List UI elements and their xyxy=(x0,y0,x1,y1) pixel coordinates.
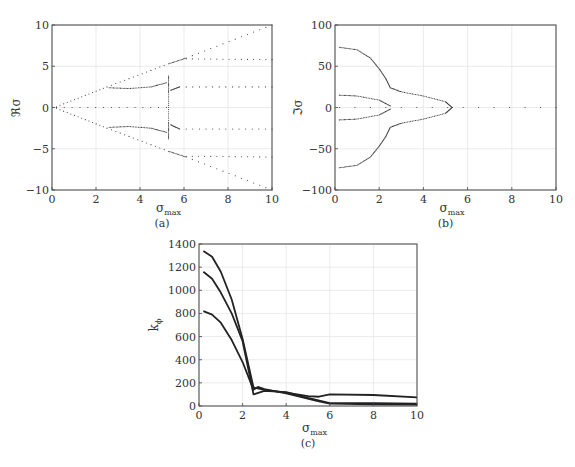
data-point xyxy=(92,122,93,123)
data-point xyxy=(265,27,266,28)
data-point xyxy=(219,86,220,87)
data-point xyxy=(417,120,418,121)
data-point xyxy=(429,117,430,118)
data-point xyxy=(160,130,161,131)
data-point xyxy=(168,128,169,129)
data-point xyxy=(158,84,159,85)
data-point xyxy=(168,120,169,121)
data-point xyxy=(229,59,230,60)
data-point xyxy=(119,107,120,108)
data-point xyxy=(138,87,139,88)
data-point xyxy=(147,87,148,88)
data-point xyxy=(265,86,266,87)
data-point xyxy=(439,100,440,101)
data-point xyxy=(435,115,436,116)
data-point xyxy=(353,165,354,166)
y-tick-label: 0 xyxy=(325,102,332,115)
data-point xyxy=(339,47,340,48)
data-point xyxy=(159,130,160,131)
data-point xyxy=(109,87,110,88)
data-point xyxy=(124,126,125,127)
data-point xyxy=(179,86,180,87)
data-point xyxy=(416,107,417,108)
data-point xyxy=(426,118,427,119)
data-point xyxy=(361,96,362,97)
data-point xyxy=(431,116,432,117)
data-point xyxy=(351,48,352,49)
data-point xyxy=(235,156,236,157)
data-point xyxy=(163,83,164,84)
data-point xyxy=(174,153,175,154)
data-point xyxy=(135,126,136,127)
data-point xyxy=(357,95,358,96)
data-point xyxy=(351,165,352,166)
data-point xyxy=(124,80,125,81)
data-point xyxy=(340,47,341,48)
y-tick-label: −100 xyxy=(302,184,332,197)
data-point xyxy=(340,119,341,120)
y-tick-label: 0 xyxy=(42,102,49,115)
data-point xyxy=(85,119,86,120)
data-point xyxy=(210,156,211,157)
data-point xyxy=(222,59,223,60)
data-point xyxy=(183,58,184,59)
data-point xyxy=(139,127,140,128)
data-point xyxy=(111,85,112,86)
data-point xyxy=(374,115,375,116)
data-point xyxy=(377,99,378,100)
data-point xyxy=(253,182,254,183)
data-point xyxy=(402,92,403,93)
data-point xyxy=(168,107,169,108)
data-point xyxy=(164,65,165,66)
data-point xyxy=(63,111,64,112)
data-point xyxy=(146,87,147,88)
data-point xyxy=(364,160,365,161)
data-point xyxy=(440,100,441,101)
data-point xyxy=(235,175,236,176)
data-point xyxy=(78,116,79,117)
data-point xyxy=(370,107,371,108)
data-point xyxy=(362,161,363,162)
data-point xyxy=(341,95,342,96)
data-point xyxy=(184,58,185,59)
x-tick-label: 4 xyxy=(137,193,144,206)
data-point xyxy=(59,105,60,106)
data-point xyxy=(166,132,167,133)
data-point xyxy=(345,95,346,96)
data-point xyxy=(168,124,169,125)
data-point xyxy=(229,156,230,157)
data-point xyxy=(345,48,346,49)
y-axis-label: kϕ xyxy=(147,318,163,331)
data-point xyxy=(368,97,369,98)
data-point xyxy=(88,93,89,94)
data-point xyxy=(253,59,254,60)
data-point xyxy=(178,60,179,61)
data-point xyxy=(353,49,354,50)
data-point xyxy=(149,86,150,87)
data-point xyxy=(120,126,121,127)
data-point xyxy=(348,48,349,49)
data-point xyxy=(168,83,169,84)
data-point xyxy=(81,118,82,119)
y-tick-label: 1200 xyxy=(168,261,196,274)
data-point xyxy=(123,88,124,89)
data-point xyxy=(447,107,448,108)
data-point xyxy=(259,156,260,157)
data-point xyxy=(540,107,541,108)
data-point xyxy=(127,88,128,89)
data-point xyxy=(353,119,354,120)
data-point xyxy=(128,126,129,127)
data-point xyxy=(92,92,93,93)
data-point xyxy=(155,129,156,130)
data-point xyxy=(355,49,356,50)
data-point xyxy=(412,93,413,94)
data-point xyxy=(120,88,121,89)
y-tick-label: 200 xyxy=(175,377,196,390)
data-point xyxy=(216,59,217,60)
data-point xyxy=(345,166,346,167)
data-point xyxy=(360,162,361,163)
data-point xyxy=(168,101,169,102)
data-point xyxy=(418,119,419,120)
data-point xyxy=(87,107,88,108)
data-point xyxy=(67,112,68,113)
